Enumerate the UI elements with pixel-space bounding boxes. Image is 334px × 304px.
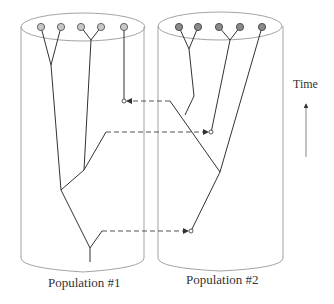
time-axis-label: Time	[293, 77, 318, 92]
population-1-tips	[37, 23, 127, 30]
population-1-label: Population #1	[48, 275, 121, 291]
population-2-tips	[175, 23, 265, 30]
migration-events	[102, 101, 208, 231]
population-2-genealogy	[170, 27, 262, 231]
population-2-cylinder	[158, 12, 283, 271]
population-2-label: Population #2	[186, 272, 259, 288]
coalescent-diagram	[0, 0, 334, 304]
population-1-genealogy	[41, 27, 124, 262]
